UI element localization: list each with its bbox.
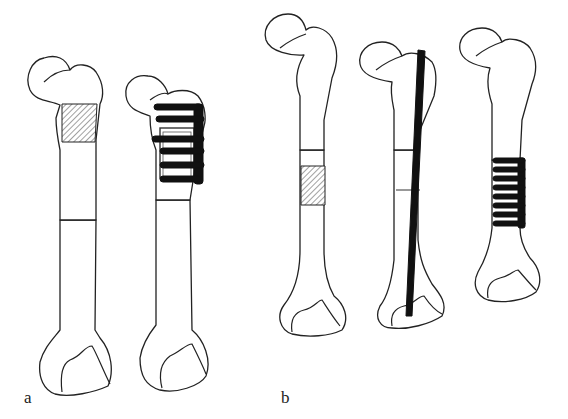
femur-diagram bbox=[0, 0, 568, 419]
bone-b1 bbox=[265, 14, 345, 336]
panel-label-b: b bbox=[281, 388, 290, 408]
bone-b2 bbox=[360, 42, 444, 328]
bone-a1 bbox=[28, 57, 111, 396]
bone-a2 bbox=[126, 76, 208, 391]
panel-label-a: a bbox=[24, 388, 32, 408]
bone-b3 bbox=[460, 28, 540, 302]
figure-canvas: a b bbox=[0, 0, 568, 419]
